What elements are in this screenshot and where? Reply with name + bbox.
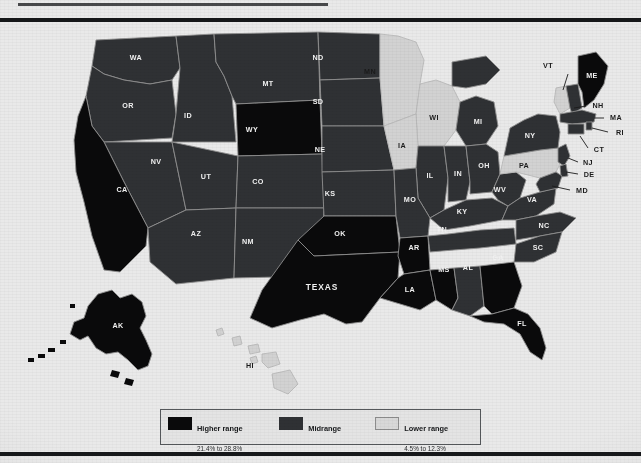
legend-item-lower[interactable]: Lower range 4.5% to 12.3% — [375, 416, 473, 455]
state-IN[interactable] — [444, 146, 470, 202]
state-RI[interactable] — [586, 122, 592, 130]
map-page: WA OR ID MT WY NV CA UT AZ CO NM ND SD N… — [0, 0, 641, 463]
map-legend: Higher range 21.4% to 28.8% Midrange Low… — [160, 409, 481, 445]
legend-swatch-lower — [375, 417, 399, 430]
legend-item-higher[interactable]: Higher range 21.4% to 28.8% — [168, 416, 275, 455]
state-KS[interactable] — [322, 170, 396, 216]
state-WY[interactable] — [236, 100, 322, 156]
state-ND[interactable] — [318, 32, 380, 80]
state-SD[interactable] — [320, 78, 384, 126]
legend-range-lower: 4.5% to 12.3% — [404, 445, 446, 452]
legend-swatch-midrange — [279, 417, 303, 430]
state-CO[interactable] — [236, 154, 324, 208]
map-svg[interactable]: WA OR ID MT WY NV CA UT AZ CO NM ND SD N… — [0, 22, 641, 396]
state-AL[interactable] — [452, 266, 484, 316]
legend-label-midrange: Midrange — [308, 424, 341, 433]
legend-swatch-higher — [168, 417, 192, 430]
state-CT[interactable] — [568, 124, 584, 134]
legend-label-lower: Lower range — [404, 424, 448, 433]
state-AR[interactable] — [398, 236, 430, 274]
legend-range-higher: 21.4% to 28.8% — [197, 445, 242, 452]
legend-label-higher: Higher range — [197, 424, 243, 433]
bottom-rule — [0, 452, 641, 456]
top-faint-rule — [18, 3, 328, 6]
state-NE[interactable] — [322, 126, 394, 172]
us-choropleth-map[interactable]: WA OR ID MT WY NV CA UT AZ CO NM ND SD N… — [0, 22, 641, 396]
legend-item-midrange[interactable]: Midrange — [279, 416, 371, 436]
